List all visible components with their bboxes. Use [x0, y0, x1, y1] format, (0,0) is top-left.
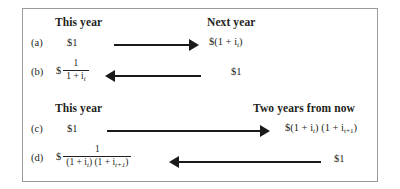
row-c-right-value-second-subscript: t+1	[344, 127, 353, 135]
row-b-denominator: 1 + it	[63, 71, 88, 82]
row-b-denominator-main: 1 + i	[66, 71, 84, 81]
arrow-row-c-head	[260, 125, 270, 137]
row-c-right-value-first: $(1 + i	[285, 122, 313, 133]
row-b-numerator: 1	[71, 59, 82, 69]
arrow-row-a	[114, 39, 199, 51]
panel-one-header-this-year: This year	[55, 16, 102, 28]
panel-two-header-two-years-from-now: Two years from now	[253, 102, 355, 114]
row-label-d: (d)	[31, 152, 43, 163]
row-b-left-expression: $ 1 1 + it	[56, 59, 89, 82]
panel-one-header-next-year: Next year	[207, 16, 255, 28]
figure-frame: This year Next year (a) $1 $(1 + it) (b)…	[22, 8, 378, 182]
row-c-right-value: $(1 + it) (1 + it+1)	[285, 122, 357, 133]
arrow-row-b-head	[105, 70, 115, 82]
row-c-right-value-middle: ) (1 + i	[315, 122, 344, 133]
row-b-fraction: 1 1 + it	[63, 59, 88, 82]
arrow-row-c	[107, 125, 270, 137]
row-a-right-value-tail: )	[239, 36, 243, 47]
panel-two-year: This year Two years from now (c) $1 $(1 …	[23, 95, 377, 183]
arrow-row-d-shaft	[178, 161, 321, 163]
row-d-right-value: $1	[334, 153, 345, 164]
row-label-c: (c)	[31, 123, 43, 134]
arrow-row-c-shaft	[107, 130, 261, 132]
row-d-denominator-tail: )	[125, 157, 128, 167]
arrow-row-a-head	[189, 39, 199, 51]
row-a-right-value-subscript: t	[237, 41, 239, 49]
row-label-a: (a)	[31, 37, 43, 48]
row-d-numerator: 1	[92, 145, 103, 155]
row-c-right-value-tail: )	[353, 122, 357, 133]
row-d-fraction: 1 (1 + it) (1 + it+1)	[63, 145, 131, 168]
row-a-right-value: $(1 + it)	[209, 36, 243, 47]
row-d-left-expression: $ 1 (1 + it) (1 + it+1)	[56, 145, 131, 168]
arrow-row-a-shaft	[114, 44, 190, 46]
row-b-right-value: $1	[231, 66, 242, 77]
row-b-dollar-sign: $	[56, 65, 61, 76]
row-d-denominator-second-subscript: t+1	[115, 161, 125, 169]
row-c-right-value-first-subscript: t	[313, 127, 315, 135]
arrow-row-d-head	[169, 156, 179, 168]
panel-one-year: This year Next year (a) $1 $(1 + it) (b)…	[23, 9, 377, 95]
row-b-denominator-subscript: t	[84, 75, 86, 83]
row-c-left-value: $1	[67, 123, 78, 134]
row-a-right-value-main: $(1 + i	[209, 36, 237, 47]
arrow-row-b-shaft	[114, 75, 201, 77]
row-d-denominator: (1 + it) (1 + it+1)	[63, 157, 131, 168]
row-label-b: (b)	[31, 66, 43, 77]
row-d-denominator-first-subscript: t	[87, 161, 89, 169]
arrow-row-d	[169, 156, 321, 168]
row-d-dollar-sign: $	[56, 151, 61, 162]
panel-two-header-this-year: This year	[55, 102, 102, 114]
arrow-row-b	[105, 70, 201, 82]
row-a-left-value: $1	[67, 37, 78, 48]
row-d-denominator-first: (1 + i	[66, 157, 87, 167]
row-d-denominator-middle: ) (1 + i	[89, 157, 115, 167]
